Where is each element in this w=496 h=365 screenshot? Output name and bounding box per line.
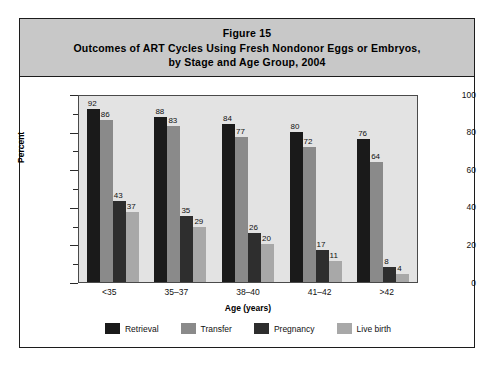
legend-item-pregnancy[interactable]: Pregnancy xyxy=(254,323,315,334)
bar-slot: 88 xyxy=(154,96,167,282)
bar-value-label: 77 xyxy=(236,127,245,136)
y-axis-tick xyxy=(70,283,78,284)
bar-value-label: 8 xyxy=(384,257,388,266)
bar-slot: 64 xyxy=(370,96,383,282)
bar-value-label: 29 xyxy=(194,217,203,226)
bar-slot: 43 xyxy=(113,96,126,282)
bar[interactable] xyxy=(126,212,139,282)
bar-value-label: 86 xyxy=(101,110,110,119)
bar[interactable] xyxy=(100,120,113,282)
bar-value-label: 72 xyxy=(304,137,313,146)
legend-swatch xyxy=(254,323,269,334)
bar[interactable] xyxy=(396,274,409,282)
bar-slot: 80 xyxy=(290,96,303,282)
bar[interactable] xyxy=(167,126,180,282)
bar-value-label: 11 xyxy=(330,251,338,260)
x-axis-tick-label: <35 xyxy=(102,287,116,297)
legend-swatch xyxy=(337,323,352,334)
legend-swatch xyxy=(181,323,196,334)
bar-slot: 35 xyxy=(180,96,193,282)
bar-slot: 29 xyxy=(193,96,206,282)
x-axis-tick-label: >42 xyxy=(380,287,394,297)
y-axis-tick xyxy=(70,95,78,96)
bar-value-label: 83 xyxy=(168,116,177,125)
bar-value-label: 35 xyxy=(181,206,190,215)
bar-slot: 86 xyxy=(100,96,113,282)
bar-slot: 17 xyxy=(316,96,329,282)
figure-title-line-2: Outcomes of ART Cycles Using Fresh Nondo… xyxy=(73,41,420,56)
bar[interactable] xyxy=(290,132,303,282)
legend-item-transfer[interactable]: Transfer xyxy=(181,323,232,334)
bar[interactable] xyxy=(180,216,193,282)
bar[interactable] xyxy=(370,162,383,282)
bar[interactable] xyxy=(303,147,316,282)
legend-item-live-birth[interactable]: Live birth xyxy=(337,323,392,334)
x-axis-tick-labels: <3535–3738–4041–42>42 xyxy=(78,287,418,297)
legend-label: Retrieval xyxy=(125,324,159,334)
bar-value-label: 20 xyxy=(262,234,271,243)
bar-value-label: 64 xyxy=(371,152,380,161)
y-axis-tick-label: 80 xyxy=(430,128,476,137)
bar-group: 84772620 xyxy=(222,96,274,282)
bar-slot: 72 xyxy=(303,96,316,282)
legend-swatch xyxy=(105,323,120,334)
bar-value-label: 17 xyxy=(317,240,326,249)
bar-group: 92864337 xyxy=(87,96,139,282)
bar-slot: 77 xyxy=(235,96,248,282)
bar[interactable] xyxy=(261,244,274,282)
x-axis-title: Age (years) xyxy=(78,303,418,313)
figure-title-band: Figure 15 Outcomes of ART Cycles Using F… xyxy=(20,19,474,77)
bar-slot: 8 xyxy=(383,96,396,282)
bar[interactable] xyxy=(87,109,100,282)
bar-group: 80721711 xyxy=(290,96,342,282)
y-axis-tick xyxy=(70,245,78,246)
bar[interactable] xyxy=(222,124,235,282)
bar-value-label: 37 xyxy=(127,202,136,211)
bar-slot: 26 xyxy=(248,96,261,282)
bar[interactable] xyxy=(154,117,167,282)
bar[interactable] xyxy=(248,233,261,282)
bar-slot: 83 xyxy=(167,96,180,282)
bar[interactable] xyxy=(383,267,396,282)
x-axis-tick-label: 41–42 xyxy=(308,287,332,297)
legend-label: Transfer xyxy=(201,324,232,334)
y-axis-tick xyxy=(70,170,78,171)
figure-number: Figure 15 xyxy=(223,26,272,41)
bar-value-label: 80 xyxy=(291,122,300,131)
bar-slot: 84 xyxy=(222,96,235,282)
bar[interactable] xyxy=(113,201,126,282)
bar-slot: 4 xyxy=(396,96,409,282)
legend-label: Live birth xyxy=(357,324,392,334)
bar-value-label: 84 xyxy=(223,114,232,123)
bar-group: 88833529 xyxy=(154,96,206,282)
y-axis-tick-label: 0 xyxy=(430,279,476,288)
y-axis-title: Percent xyxy=(16,132,26,163)
chart-legend: RetrievalTransferPregnancyLive birth xyxy=(20,323,476,334)
bar-slot: 92 xyxy=(87,96,100,282)
bar[interactable] xyxy=(329,261,342,282)
y-axis-tick-label: 60 xyxy=(430,166,476,175)
figure-frame: Figure 15 Outcomes of ART Cycles Using F… xyxy=(19,18,475,348)
chart-region: Percent 020406080100 9286433788833529847… xyxy=(20,77,476,347)
y-axis-tick-label: 40 xyxy=(430,203,476,212)
bar-value-label: 92 xyxy=(88,99,97,108)
bars-layer: 92864337888335298477262080721711766484 xyxy=(79,96,417,282)
y-axis-tick-label: 20 xyxy=(430,241,476,250)
bar[interactable] xyxy=(316,250,329,282)
bar-slot: 11 xyxy=(329,96,342,282)
legend-label: Pregnancy xyxy=(274,324,315,334)
bar-value-label: 88 xyxy=(155,107,164,116)
figure-title-line-3: by Stage and Age Group, 2004 xyxy=(168,55,325,70)
plot-area: 92864337888335298477262080721711766484 xyxy=(78,95,418,283)
bar-value-label: 76 xyxy=(358,129,367,138)
bar-group: 766484 xyxy=(357,96,409,282)
bar-slot: 76 xyxy=(357,96,370,282)
x-axis-tick-label: 35–37 xyxy=(164,287,188,297)
bar[interactable] xyxy=(357,139,370,282)
legend-item-retrieval[interactable]: Retrieval xyxy=(105,323,159,334)
bar[interactable] xyxy=(235,137,248,282)
y-axis-tick xyxy=(70,133,78,134)
x-axis-tick-label: 38–40 xyxy=(236,287,260,297)
bar[interactable] xyxy=(193,227,206,282)
bar-value-label: 4 xyxy=(397,264,401,273)
